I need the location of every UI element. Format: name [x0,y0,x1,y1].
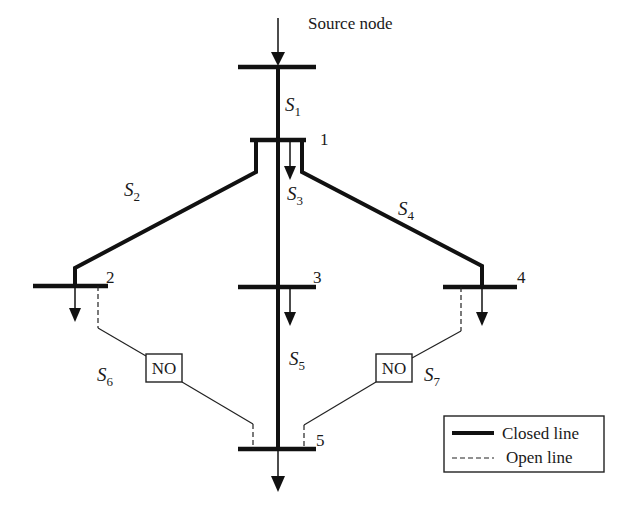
source-feed-arrow-icon [271,18,285,66]
node-label-1: 1 [320,130,329,149]
legend-open-label: Open line [506,448,573,467]
source-node-label: Source node [308,14,393,33]
line-s4 [302,140,482,287]
node-label-2: 2 [106,268,115,287]
normally-open-switch-s6: NO [146,354,182,382]
switch-label-s3: S3 [287,183,303,208]
switch-label-s5: S5 [289,348,305,373]
no-label: NO [382,359,407,378]
load-arrow-icon [284,140,296,180]
normally-open-switch-s7: NO [376,354,412,382]
switch-label-s2: S2 [124,179,140,204]
line-s2 [75,140,256,286]
node-label-5: 5 [316,431,325,450]
switch-label-s6: S6 [97,364,114,389]
load-arrow-icon [69,286,81,322]
no-label: NO [152,359,177,378]
node-label-4: 4 [517,268,526,287]
switch-label-s4: S4 [398,198,415,223]
node-label-3: 3 [313,268,322,287]
legend-closed-label: Closed line [502,424,579,443]
switch-label-s7: S7 [424,364,441,389]
distribution-network-diagram: Source node 1 2 3 4 5 [0,0,628,510]
switch-label-s1: S1 [285,94,301,119]
load-arrow-icon [271,449,285,492]
load-arrow-icon [284,287,296,326]
load-arrow-icon [476,287,488,326]
legend: Closed line Open line [444,416,604,472]
